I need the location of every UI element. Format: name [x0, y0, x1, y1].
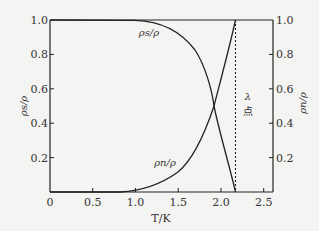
rho-n-label: ρn/ρ	[153, 157, 176, 168]
rho-n-curve	[50, 20, 236, 192]
x-tick-label: 1.0	[127, 196, 145, 209]
superfluid-density-chart: 0 0.5 1.0 1.5 2.0 2.5 T/K 0.2 0.4 0.6 0.…	[0, 0, 319, 231]
rho-s-label: ρs/ρ	[138, 27, 159, 38]
y-tick-label: 0.8	[31, 48, 49, 61]
x-tick-labels: 0 0.5 1.0 1.5 2.0 2.5	[47, 196, 273, 209]
x-tick-label: 2.5	[255, 196, 273, 209]
y-tick-label: 1.0	[31, 14, 49, 27]
x-tick-label: 2.0	[212, 196, 230, 209]
lambda-point-label: 点	[243, 106, 253, 117]
x-tick-label: 0.5	[84, 196, 102, 209]
y-tick-labels-right: 0.2 0.4 0.6 0.8 1.0	[276, 14, 294, 165]
y-tick-label: 0.6	[276, 83, 294, 96]
y-tick-label: 0.4	[31, 117, 49, 130]
y-tick-label: 0.8	[276, 48, 294, 61]
x-tick-label: 0	[47, 196, 54, 209]
y-tick-label: 0.4	[276, 117, 294, 130]
y-tick-label: 0.2	[31, 152, 49, 165]
lambda-symbol: λ	[244, 91, 251, 102]
y-axis-title-left: ρs/ρ	[18, 96, 29, 117]
x-tick-label: 1.5	[169, 196, 187, 209]
y-axis-title-right: ρn/ρ	[297, 92, 308, 115]
y-tick-label: 1.0	[276, 14, 294, 27]
y-tick-labels-left: 0.2 0.4 0.6 0.8 1.0	[31, 14, 49, 165]
rho-s-curve	[50, 20, 236, 192]
y-tick-label: 0.2	[276, 152, 294, 165]
x-axis-title: T/K	[151, 212, 171, 225]
y-tick-label: 0.6	[31, 83, 49, 96]
